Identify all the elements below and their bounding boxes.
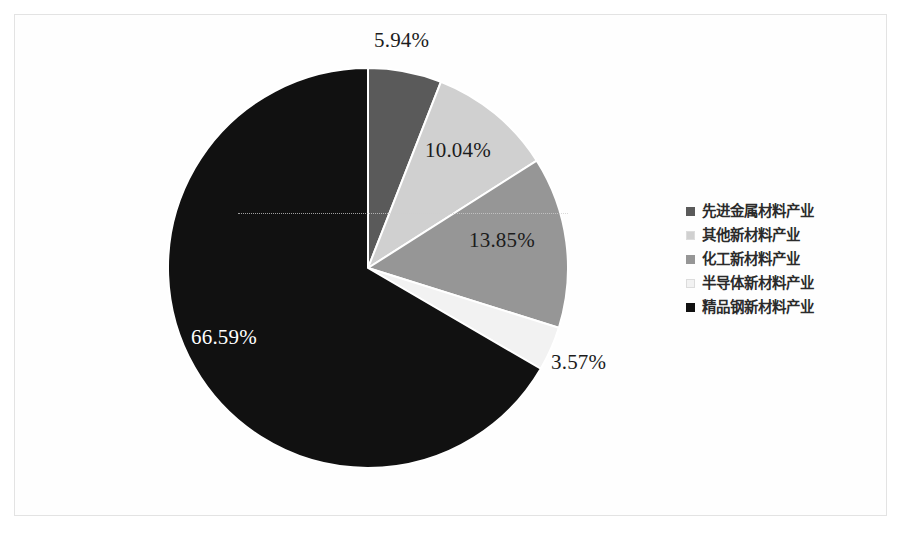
- legend-item-label: 先进金属材料产业: [702, 204, 814, 219]
- chart-canvas: 5.94% 10.04% 13.85% 3.57% 66.59% 先进金属材料产…: [0, 0, 903, 537]
- legend-swatch-icon: [686, 303, 695, 312]
- pie-slice-group: [168, 68, 568, 468]
- legend-swatch-icon: [686, 279, 695, 288]
- legend-item-label: 半导体新材料产业: [702, 276, 814, 291]
- legend-item-premium-steel-new-materials[interactable]: 精品钢新材料产业: [686, 295, 866, 319]
- legend-item-semiconductor-new-materials[interactable]: 半导体新材料产业: [686, 271, 866, 295]
- legend-item-label: 化工新材料产业: [702, 252, 800, 267]
- chart-legend: 先进金属材料产业 其他新材料产业 化工新材料产业 半导体新材料产业 精品钢新材料…: [686, 199, 866, 319]
- pie-chart-plot-area: 5.94% 10.04% 13.85% 3.57% 66.59% 先进金属材料产…: [0, 0, 903, 537]
- legend-swatch-icon: [686, 255, 695, 264]
- legend-item-advanced-metal[interactable]: 先进金属材料产业: [686, 199, 866, 223]
- slice-value-label-other-new-materials: 10.04%: [425, 138, 491, 163]
- legend-item-other-new-materials[interactable]: 其他新材料产业: [686, 223, 866, 247]
- legend-item-label: 精品钢新材料产业: [702, 300, 814, 315]
- slice-value-label-advanced-metal: 5.94%: [374, 28, 429, 53]
- slice-value-label-premium-steel: 66.59%: [191, 325, 257, 350]
- legend-swatch-icon: [686, 231, 695, 240]
- slice-value-label-chemical-new-materials: 13.85%: [469, 228, 535, 253]
- legend-item-label: 其他新材料产业: [702, 228, 800, 243]
- legend-item-chemical-new-materials[interactable]: 化工新材料产业: [686, 247, 866, 271]
- pie-chart-graphic: [148, 48, 588, 488]
- slice-value-label-semiconductor-new-materials: 3.57%: [551, 350, 606, 375]
- legend-swatch-icon: [686, 207, 695, 216]
